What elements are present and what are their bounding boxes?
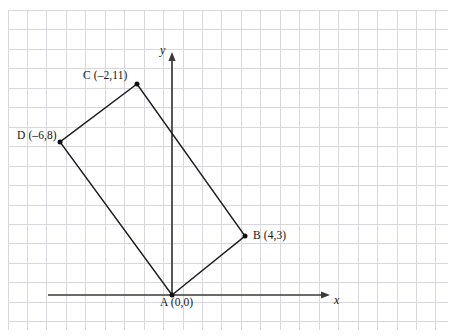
point-label-d: D (–6,8) bbox=[17, 130, 57, 142]
vertex-dot-b bbox=[243, 234, 248, 239]
point-label-b: B (4,3) bbox=[253, 230, 286, 242]
vertex-dot-d bbox=[58, 140, 63, 145]
x-axis-label: x bbox=[334, 294, 339, 306]
point-label-c: C (–2,11) bbox=[83, 70, 128, 82]
x-axis-arrow-icon bbox=[321, 291, 330, 298]
axes bbox=[48, 52, 330, 299]
coordinate-plane-svg bbox=[0, 0, 452, 336]
y-axis-label: y bbox=[160, 44, 165, 56]
vertex-dot-c bbox=[135, 82, 140, 87]
coordinate-figure: C (–2,11) D (–6,8) B (4,3) A (0,0) y x bbox=[0, 0, 452, 336]
grid-lines bbox=[8, 11, 448, 331]
y-axis-arrow-icon bbox=[168, 52, 175, 61]
point-label-a: A (0,0) bbox=[160, 297, 193, 309]
